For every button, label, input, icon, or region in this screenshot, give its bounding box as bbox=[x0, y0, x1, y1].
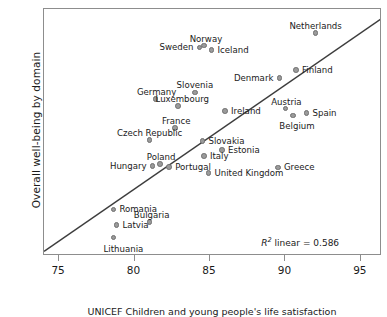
data-point[interactable] bbox=[201, 153, 207, 159]
regression-line bbox=[44, 9, 381, 255]
data-point-label: Denmark bbox=[234, 73, 274, 82]
data-point-label: Czech Republic bbox=[117, 129, 182, 138]
x-tick-label: 75 bbox=[44, 264, 72, 276]
data-point[interactable] bbox=[290, 113, 296, 119]
data-point[interactable] bbox=[293, 67, 299, 73]
data-point[interactable] bbox=[166, 164, 172, 170]
x-tick-label: 95 bbox=[346, 264, 374, 276]
data-point-label: United Kingdom bbox=[214, 169, 283, 178]
r-squared-annotation: R2 linear = 0.586 bbox=[261, 236, 339, 248]
y-axis-title: Overall well-being by domain bbox=[30, 30, 42, 230]
x-tick-label: 85 bbox=[195, 264, 223, 276]
data-point[interactable] bbox=[222, 108, 228, 114]
data-point-label: Slovenia bbox=[177, 81, 214, 90]
data-point-label: Belgium bbox=[279, 122, 314, 131]
data-point-label: Portugal bbox=[175, 163, 211, 172]
data-point[interactable] bbox=[277, 75, 283, 81]
data-point-label: Ireland bbox=[231, 107, 261, 116]
data-point-label: Estonia bbox=[228, 146, 260, 155]
plot-area: NetherlandsNorwaySwedenIcelandFinlandDen… bbox=[43, 8, 381, 255]
data-point-label: Finland bbox=[302, 66, 333, 75]
data-point[interactable] bbox=[313, 30, 319, 36]
data-point[interactable] bbox=[209, 47, 215, 53]
data-point-label: Sweden bbox=[159, 43, 193, 52]
data-point-label: Lithuania bbox=[104, 245, 144, 254]
data-point-label: Netherlands bbox=[289, 22, 341, 31]
data-point-label: Norway bbox=[190, 35, 223, 44]
data-point-label: Latvia bbox=[122, 221, 148, 230]
x-tick-mark bbox=[360, 255, 361, 261]
data-point-label: Iceland bbox=[217, 45, 248, 54]
x-tick-label: 90 bbox=[270, 264, 298, 276]
x-tick-mark bbox=[134, 255, 135, 261]
data-point-label: France bbox=[162, 117, 191, 126]
data-point-label: Bulgaria bbox=[134, 211, 170, 220]
data-point-label: Greece bbox=[284, 163, 315, 172]
data-point[interactable] bbox=[157, 161, 163, 167]
x-tick-mark bbox=[284, 255, 285, 261]
data-point-label: Luxembourg bbox=[156, 95, 210, 104]
data-point-label: Austria bbox=[271, 98, 301, 107]
data-point-label: Poland bbox=[147, 153, 176, 162]
data-point-label: Spain bbox=[313, 109, 337, 118]
x-tick-mark bbox=[58, 255, 59, 261]
data-point-label: Italy bbox=[210, 152, 229, 161]
x-axis-title: UNICEF Children and young people's life … bbox=[43, 306, 381, 317]
data-point[interactable] bbox=[114, 222, 120, 228]
x-tick-label: 80 bbox=[120, 264, 148, 276]
data-point-label: Hungary bbox=[110, 162, 147, 171]
x-tick-mark bbox=[209, 255, 210, 261]
